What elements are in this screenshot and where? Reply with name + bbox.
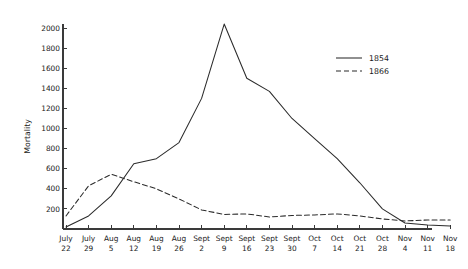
x-tick-label-day: 26 xyxy=(174,244,184,253)
x-tick-label-month: Oct xyxy=(376,234,389,243)
x-tick-label-month: Aug xyxy=(172,234,187,243)
x-tick-label-day: 18 xyxy=(445,244,455,253)
x-tick-label-day: 12 xyxy=(129,244,138,253)
y-tick-label: 1200 xyxy=(41,104,60,113)
x-tick-label-month: July xyxy=(58,234,73,243)
series-lines xyxy=(66,24,450,227)
x-tick-label-month: Sept xyxy=(216,234,233,243)
x-tick-label-day: 11 xyxy=(423,244,433,253)
y-tick-label: 1600 xyxy=(41,64,60,73)
y-tick-label: 200 xyxy=(46,205,60,214)
x-tick-label-day: 2 xyxy=(199,244,204,253)
x-tick-label-day: 19 xyxy=(152,244,162,253)
y-axis: 200400600800100012001400160018002000 xyxy=(41,24,67,229)
chart-canvas: 200400600800100012001400160018002000 Jul… xyxy=(0,0,468,269)
x-tick-label-day: 22 xyxy=(61,244,70,253)
x-tick-label-month: Nov xyxy=(398,234,413,243)
chart-legend: 18541866 xyxy=(336,54,389,76)
y-tick-label: 600 xyxy=(46,164,60,173)
x-tick-label-month: Sept xyxy=(238,234,255,243)
x-tick-label-month: July xyxy=(81,234,96,243)
x-tick-label-month: Aug xyxy=(127,234,142,243)
x-tick-label-month: Nov xyxy=(420,234,435,243)
x-tick-label-day: 30 xyxy=(287,244,297,253)
y-tick-label: 1800 xyxy=(41,44,60,53)
x-tick-label-day: 7 xyxy=(312,244,317,253)
x-tick-label-day: 29 xyxy=(84,244,94,253)
x-tick-label-month: Oct xyxy=(331,234,344,243)
y-tick-label: 400 xyxy=(46,184,60,193)
y-tick-label: 1000 xyxy=(41,124,60,133)
x-tick-label-month: Nov xyxy=(443,234,458,243)
x-tick-label-day: 9 xyxy=(222,244,227,253)
x-tick-label-day: 5 xyxy=(109,244,114,253)
mortality-line-chart: 200400600800100012001400160018002000 Jul… xyxy=(0,0,468,269)
x-tick-label-month: Sept xyxy=(261,234,278,243)
x-tick-label-day: 21 xyxy=(355,244,365,253)
legend-label-1854: 1854 xyxy=(369,54,389,63)
legend-label-1866: 1866 xyxy=(369,67,389,76)
y-tick-label: 1400 xyxy=(41,84,60,93)
y-tick-label: 2000 xyxy=(41,24,60,33)
series-line-1854 xyxy=(66,24,450,227)
x-tick-label-month: Sept xyxy=(193,234,210,243)
x-tick-label-day: 23 xyxy=(265,244,275,253)
x-tick-label-month: Oct xyxy=(353,234,366,243)
y-axis-title: Mortality xyxy=(23,119,32,154)
x-tick-label-month: Oct xyxy=(308,234,321,243)
x-tick-label-month: Aug xyxy=(149,234,164,243)
x-tick-label-month: Aug xyxy=(104,234,119,243)
y-tick-label: 800 xyxy=(46,144,60,153)
x-tick-label-month: Sept xyxy=(284,234,301,243)
x-tick-label-day: 16 xyxy=(242,244,252,253)
x-tick-label-day: 4 xyxy=(403,244,408,253)
series-line-1866 xyxy=(66,174,450,221)
x-axis: July22July29Aug5Aug12Aug19Aug26Sept2Sept… xyxy=(58,225,458,254)
x-tick-label-day: 14 xyxy=(332,244,342,253)
x-tick-label-day: 28 xyxy=(378,244,388,253)
